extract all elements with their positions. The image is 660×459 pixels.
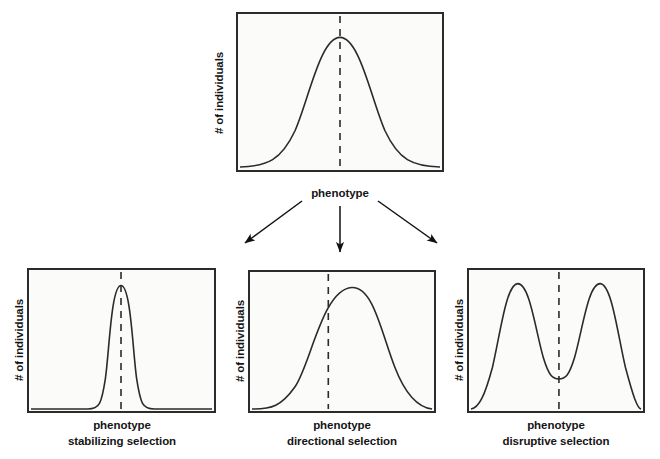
- x-axis-label-disruptive: phenotype: [496, 419, 616, 431]
- panel-original-population: [236, 12, 444, 172]
- panel-disruptive-selection: [467, 268, 645, 413]
- y-axis-label-stabilizing: # of individuals: [12, 280, 26, 400]
- curve-disruptive-selection: [469, 270, 643, 411]
- x-axis-label-original: phenotype: [290, 187, 390, 199]
- panel-stabilizing-selection: [27, 268, 216, 413]
- x-axis-label-directional: phenotype: [282, 419, 402, 431]
- caption-stabilizing-selection: stabilizing selection: [42, 435, 202, 447]
- caption-disruptive-selection: disruptive selection: [476, 435, 636, 447]
- x-axis-label-stabilizing: phenotype: [62, 419, 182, 431]
- curve-directional-selection: [250, 272, 434, 411]
- figure-canvas: # of individuals phenotype # of individu…: [0, 0, 660, 459]
- curve-original-population: [238, 14, 442, 170]
- arrow-to-stabilizing: [245, 201, 302, 243]
- arrow-to-disruptive: [378, 201, 437, 243]
- y-axis-label-disruptive: # of individuals: [452, 280, 466, 400]
- y-axis-label-original: # of individuals: [212, 33, 226, 153]
- caption-directional-selection: directional selection: [262, 435, 422, 447]
- panel-directional-selection: [248, 270, 436, 413]
- curve-stabilizing-selection: [29, 270, 214, 411]
- y-axis-label-directional: # of individuals: [233, 281, 247, 401]
